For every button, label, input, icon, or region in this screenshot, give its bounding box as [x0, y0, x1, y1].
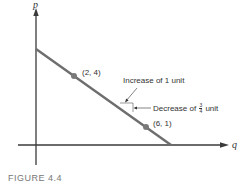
figure-graph — [0, 0, 250, 187]
decrease-annotation: Decrease of 3 4 unit — [153, 103, 218, 114]
point-6-1-label: (6, 1) — [153, 120, 172, 128]
fraction-denominator: 4 — [199, 109, 202, 114]
decrease-prefix: Decrease of — [153, 104, 196, 113]
q-axis-label: q — [232, 140, 237, 150]
point-2-4 — [71, 73, 77, 79]
p-axis-label: p — [33, 0, 38, 10]
decrease-arrow-icon — [134, 107, 138, 110]
point-6-1 — [143, 124, 149, 130]
figure-caption: FIGURE 4.4 — [8, 174, 62, 183]
point-2-4-label: (2, 4) — [82, 69, 101, 77]
decrease-suffix: unit — [205, 104, 218, 113]
decrease-fraction: 3 4 — [199, 103, 202, 114]
increase-arrow-icon — [125, 99, 129, 103]
increase-annotation: Increase of 1 unit — [123, 77, 184, 85]
demand-line — [36, 49, 171, 145]
increase-leader — [126, 88, 137, 101]
q-axis-arrow-icon — [220, 142, 229, 147]
